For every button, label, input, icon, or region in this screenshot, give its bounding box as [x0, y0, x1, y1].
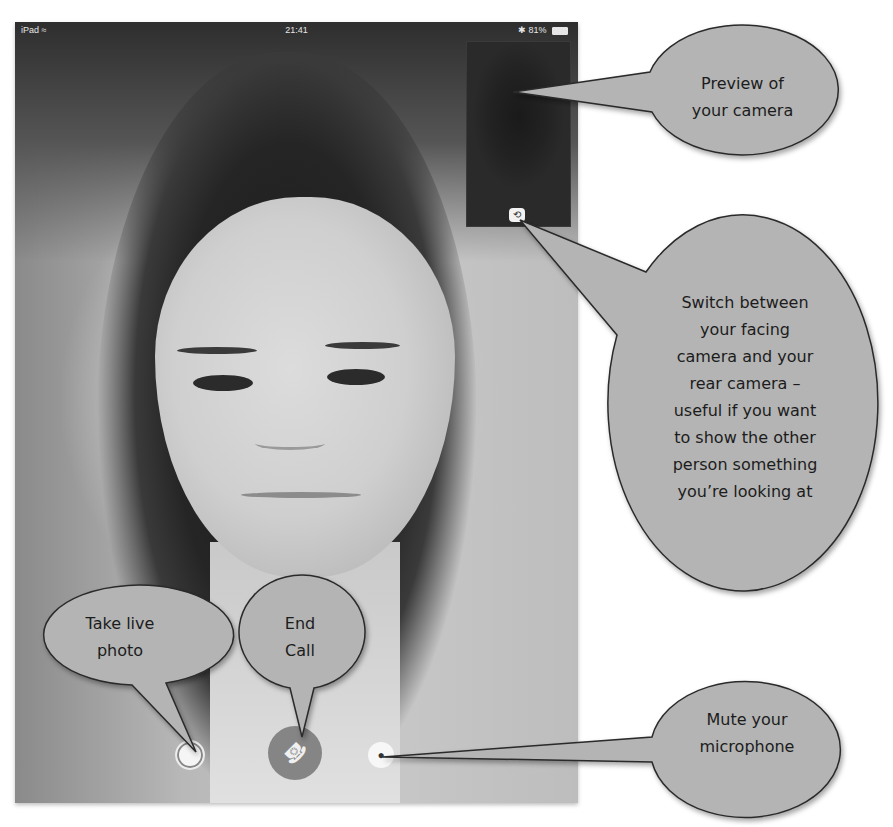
mute-microphone-button[interactable]: ●: [368, 742, 394, 768]
callout-line: microphone: [657, 733, 837, 760]
callout-line: rear camera –: [620, 370, 870, 397]
callout-line: camera and your: [620, 343, 870, 370]
callout-line: Call: [245, 637, 355, 664]
status-bar: iPad ≈ 21:41 ✱ 81%: [15, 22, 578, 38]
callout-mute-text: Mute your microphone: [657, 706, 837, 760]
callout-line: to show the other: [620, 424, 870, 451]
callout-take-photo-text: Take live photo: [45, 610, 195, 664]
callout-line: photo: [45, 637, 195, 664]
callout-line: useful if you want: [620, 397, 870, 424]
self-camera-preview: ⟲: [467, 42, 570, 226]
callout-line: Preview of: [650, 70, 835, 97]
take-live-photo-button[interactable]: [175, 740, 205, 770]
left-brow: [177, 347, 257, 354]
left-eye: [193, 375, 253, 391]
callout-line: Take live: [45, 610, 195, 637]
callout-preview-text: Preview of your camera: [650, 70, 835, 124]
battery-icon: [552, 27, 568, 35]
right-eye: [327, 369, 385, 385]
camera-switch-icon: ⟲: [513, 209, 521, 220]
remote-video-nose: [255, 437, 325, 450]
battery-percent: 81%: [528, 25, 546, 35]
end-call-button[interactable]: ☎: [268, 726, 322, 780]
callout-line: you’re looking at: [620, 478, 870, 505]
bluetooth-icon: ✱: [518, 25, 526, 35]
callout-line: Mute your: [657, 706, 837, 733]
callout-line: Switch between: [620, 289, 870, 316]
clock: 21:41: [15, 22, 578, 38]
callout-switch-camera-text: Switch between your facing camera and yo…: [620, 289, 870, 505]
status-right: ✱ 81%: [518, 22, 568, 38]
callout-line: End: [245, 610, 355, 637]
ipad-screen: iPad ≈ 21:41 ✱ 81% ⟲: [15, 22, 578, 803]
right-brow: [325, 342, 400, 349]
microphone-icon: ●: [377, 748, 384, 762]
remote-video-mouth: [241, 492, 361, 498]
switch-camera-button[interactable]: ⟲: [509, 208, 525, 222]
callout-line: person something: [620, 451, 870, 478]
callout-line: your facing: [620, 316, 870, 343]
callout-line: your camera: [650, 97, 835, 124]
callout-end-call-text: End Call: [245, 610, 355, 664]
